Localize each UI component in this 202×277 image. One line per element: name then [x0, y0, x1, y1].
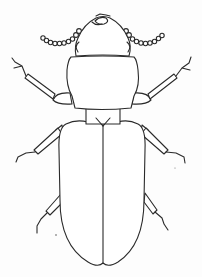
hind-right-leg	[144, 193, 168, 230]
mesothorax	[86, 108, 120, 126]
middle-right-leg	[140, 125, 185, 163]
beetle-drawing	[0, 0, 202, 277]
left-antenna	[41, 29, 82, 46]
beetle-illustration: beetle line drawing (dorsal view)	[0, 0, 202, 277]
hind-left-leg	[37, 194, 62, 233]
middle-left-leg	[16, 125, 64, 162]
pronotum	[67, 56, 139, 110]
elytra	[59, 118, 145, 265]
head	[75, 14, 130, 56]
front-right-leg	[132, 57, 191, 104]
front-left-leg	[12, 58, 72, 104]
speck	[174, 167, 175, 168]
speck	[55, 234, 57, 236]
